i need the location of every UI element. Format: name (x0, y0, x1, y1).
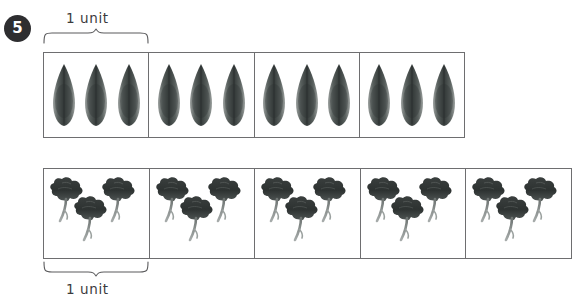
leaf-unit-cell[interactable] (149, 53, 254, 137)
leaf-icon (156, 63, 182, 127)
question-number-text: 5 (12, 21, 23, 36)
leaf-icon (431, 63, 457, 127)
flower-unit-cell[interactable] (255, 169, 361, 258)
flower-icon (389, 196, 431, 248)
leaf-icon (366, 63, 392, 127)
flower-unit-cell[interactable] (466, 169, 571, 258)
leaf-icon (51, 63, 77, 127)
leaf-icon (221, 63, 247, 127)
question-number-badge: 5 (4, 15, 31, 42)
flower-icon (494, 196, 536, 248)
leaves-bar-model (43, 52, 465, 138)
leaf-icon (188, 63, 214, 127)
leaf-unit-cell[interactable] (255, 53, 360, 137)
unit-label-bottom: 1 unit (66, 281, 109, 297)
flower-icon (283, 196, 325, 248)
unit-label-top: 1 unit (66, 10, 109, 26)
unit-brace-bottom-icon (42, 261, 150, 277)
leaf-icon (116, 63, 142, 127)
leaf-icon (294, 63, 320, 127)
leaf-icon (261, 63, 287, 127)
flowers-bar-model (43, 168, 572, 259)
leaf-icon (399, 63, 425, 127)
flower-unit-cell[interactable] (44, 169, 150, 258)
flower-unit-cell[interactable] (361, 169, 467, 258)
unit-brace-top-icon (42, 28, 150, 44)
leaf-icon (83, 63, 109, 127)
flower-icon (178, 196, 220, 248)
leaf-unit-cell[interactable] (360, 53, 464, 137)
flower-unit-cell[interactable] (150, 169, 256, 258)
leaf-icon (326, 63, 352, 127)
leaf-unit-cell[interactable] (44, 53, 149, 137)
flower-icon (72, 196, 114, 248)
